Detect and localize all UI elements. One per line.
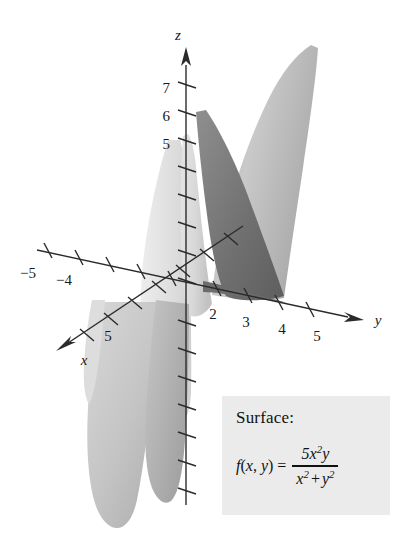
surface-caption-box: Surface: f(x, y) = 5x2y x2+y2 [222, 396, 390, 515]
y-tick-label-neg4: −4 [56, 272, 72, 288]
surface-formula: f(x, y) = 5x2y x2+y2 [236, 444, 380, 489]
y-tick-label-3: 3 [242, 314, 250, 330]
y-tick-label-2: 2 [209, 306, 217, 322]
z-tick-label-5: 5 [163, 136, 171, 152]
x-axis-arrow-icon [56, 336, 76, 351]
y-tick-label-4: 4 [278, 321, 286, 337]
formula-left-hand-side: f(x, y) = [236, 457, 286, 475]
axis-text-labels: z 7 6 5 y 2 3 4 5 −5 −4 x 5 [20, 27, 382, 368]
formula-fraction: 5x2y x2+y2 [292, 444, 338, 489]
x-tick-label-5: 5 [104, 328, 112, 344]
z-tick-label-6: 6 [163, 108, 171, 124]
surface-figure: z 7 6 5 y 2 3 4 5 −5 −4 x 5 Surface: f(x… [0, 0, 398, 545]
caption-title: Surface: [236, 408, 380, 428]
y-axis-label: y [373, 312, 382, 328]
y-tick-label-5: 5 [313, 328, 321, 344]
z-axis-label: z [174, 27, 181, 43]
z-axis-arrow-icon [181, 47, 191, 66]
y-tick-label-neg5: −5 [20, 265, 36, 281]
z-tick-label-7: 7 [163, 80, 171, 96]
formula-numerator: 5x2y [298, 444, 334, 464]
formula-denominator: x2+y2 [292, 469, 338, 489]
x-axis-label: x [80, 352, 88, 368]
